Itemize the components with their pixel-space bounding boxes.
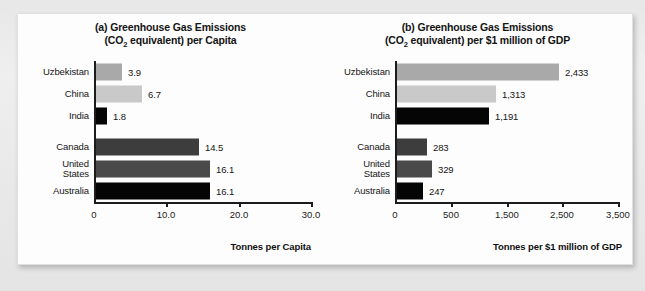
bar-row: India1.8	[32, 105, 311, 127]
bar-value-label: 283	[433, 142, 449, 153]
chart-b-plot-area: Uzbekistan2,433China1,313India1,191Canad…	[333, 61, 618, 234]
chart-a-plot-area: Uzbekistan3.9China6.7India1.8Canada14.5U…	[32, 61, 311, 234]
x-axis-tick	[451, 202, 453, 207]
chart-b-bar-rows: Uzbekistan2,433China1,313India1,191Canad…	[333, 61, 618, 202]
chart-a-x-axis: 010.020.030.0	[94, 202, 311, 204]
bar	[395, 108, 489, 125]
bar-track: 1,313	[395, 83, 618, 105]
bar-row: UnitedStates329	[333, 158, 618, 180]
x-axis-tick-label: 1,500	[495, 209, 519, 220]
chart-a-y-axis	[94, 61, 96, 202]
bar-category-label: Australia	[32, 186, 94, 197]
x-axis-tick-label: 20.0	[230, 209, 249, 220]
charts-container: (a) Greenhouse Gas Emissions (CO2 equiva…	[18, 14, 632, 264]
x-axis-tick-label: 3,500	[606, 209, 630, 220]
bar-value-label: 3.9	[128, 67, 141, 78]
bar-value-label: 1.8	[113, 111, 126, 122]
bar-track: 247	[395, 180, 618, 202]
bar-track: 329	[395, 158, 618, 180]
x-axis-tick	[507, 202, 509, 207]
bar-value-label: 16.1	[216, 186, 234, 197]
chart-a-bar-rows: Uzbekistan3.9China6.7India1.8Canada14.5U…	[32, 61, 311, 202]
bar	[395, 139, 427, 156]
x-axis-tick-label: 10.0	[157, 209, 176, 220]
bar-value-label: 14.5	[205, 142, 223, 153]
chart-a-emissions-per-capita: (a) Greenhouse Gas Emissions (CO2 equiva…	[18, 14, 323, 264]
chart-b-title-line1: (b) Greenhouse Gas Emissions	[402, 21, 554, 33]
bar-track: 16.1	[94, 158, 311, 180]
bar-track: 283	[395, 136, 618, 158]
x-axis-tick	[239, 202, 241, 207]
chart-b-x-axis: 05001,5002,5003,500	[395, 202, 618, 204]
bar-category-label: China	[333, 89, 395, 100]
bar-category-label: UnitedStates	[333, 159, 395, 180]
x-axis-tick	[166, 202, 168, 207]
bar-track: 3.9	[94, 61, 311, 83]
chart-b-title-line2: (CO2 equivalent) per $1 million of GDP	[323, 34, 632, 52]
bar-category-label: China	[32, 89, 94, 100]
bar-category-label: Uzbekistan	[32, 67, 94, 78]
bar-row: India1,191	[333, 105, 618, 127]
bar	[395, 86, 496, 103]
x-axis-tick-label: 0	[91, 209, 96, 220]
bar-track: 1.8	[94, 105, 311, 127]
bar-row: Canada283	[333, 136, 618, 158]
bar-row: Uzbekistan2,433	[333, 61, 618, 83]
bar-row: Australia16.1	[32, 180, 311, 202]
bar-track: 16.1	[94, 180, 311, 202]
bar	[395, 64, 559, 81]
figure-panel: (a) Greenhouse Gas Emissions (CO2 equiva…	[17, 13, 633, 265]
bar-value-label: 2,433	[565, 67, 588, 78]
bar	[94, 139, 199, 156]
bar-value-label: 247	[429, 186, 445, 197]
bar-value-label: 16.1	[216, 164, 234, 175]
bar-category-label: Australia	[333, 186, 395, 197]
bar	[94, 161, 210, 178]
bar-value-label: 1,313	[502, 89, 525, 100]
bar-category-label: India	[32, 111, 94, 122]
chart-b-title-l2-post: equivalent) per $1 million of GDP	[408, 34, 570, 46]
bar-row: China1,313	[333, 83, 618, 105]
bar-value-label: 329	[438, 164, 454, 175]
bar-category-label: UnitedStates	[32, 159, 94, 180]
bar-category-label: Canada	[32, 142, 94, 153]
bar-row: Australia247	[333, 180, 618, 202]
chart-a-title-l2-pre: (CO	[105, 34, 124, 46]
bar	[94, 86, 142, 103]
x-axis-tick	[618, 202, 620, 207]
bar-category-label: Uzbekistan	[333, 67, 395, 78]
chart-a-title: (a) Greenhouse Gas Emissions (CO2 equiva…	[18, 14, 323, 51]
bar-row: Uzbekistan3.9	[32, 61, 311, 83]
bar-track: 6.7	[94, 83, 311, 105]
x-axis-tick	[311, 202, 313, 207]
chart-a-title-line2: (CO2 equivalent) per Capita	[18, 34, 323, 52]
x-axis-tick-label: 0	[392, 209, 397, 220]
x-axis-tick-label: 2,500	[550, 209, 574, 220]
chart-a-x-axis-title: Tonnes per Capita	[231, 241, 311, 252]
chart-b-title: (b) Greenhouse Gas Emissions (CO2 equiva…	[323, 14, 632, 51]
chart-a-title-line1: (a) Greenhouse Gas Emissions	[95, 21, 246, 33]
bar-track: 2,433	[395, 61, 618, 83]
x-axis-tick-label: 500	[443, 209, 459, 220]
bar-track: 1,191	[395, 105, 618, 127]
bar	[94, 183, 210, 200]
bar	[94, 64, 122, 81]
bar-track: 14.5	[94, 136, 311, 158]
chart-b-emissions-per-gdp: (b) Greenhouse Gas Emissions (CO2 equiva…	[323, 14, 632, 264]
bar	[395, 161, 432, 178]
bar-row: China6.7	[32, 83, 311, 105]
x-axis-tick	[562, 202, 564, 207]
bar-row: UnitedStates16.1	[32, 158, 311, 180]
bar-row: Canada14.5	[32, 136, 311, 158]
bar-category-label: Canada	[333, 142, 395, 153]
chart-b-x-axis-title: Tonnes per $1 million of GDP	[493, 241, 622, 252]
chart-b-title-l2-pre: (CO	[385, 34, 404, 46]
chart-a-title-l2-post: equivalent) per Capita	[127, 34, 236, 46]
bar-category-label: India	[333, 111, 395, 122]
chart-b-y-axis	[395, 61, 397, 202]
bar-value-label: 6.7	[148, 89, 161, 100]
bar	[395, 183, 423, 200]
x-axis-tick-label: 30.0	[302, 209, 321, 220]
bar-value-label: 1,191	[495, 111, 518, 122]
